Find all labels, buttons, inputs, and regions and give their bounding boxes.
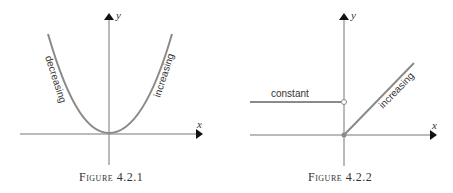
y-axis-label: y xyxy=(350,9,356,21)
open-circle-point xyxy=(342,100,347,105)
parabola-curve xyxy=(48,34,172,133)
constant-label: constant xyxy=(271,88,309,99)
figure-4-2-2: y x constant increasing xyxy=(250,9,437,166)
x-axis-label: x xyxy=(431,119,437,131)
caption-word: Figure xyxy=(79,170,113,184)
figure-caption-2: Figure 4.2.2 xyxy=(308,170,372,185)
increasing-label: increasing xyxy=(377,70,417,110)
y-axis-label: y xyxy=(115,9,121,21)
y-axis-arrow-icon xyxy=(339,13,349,20)
caption-number: 4.2.1 xyxy=(117,170,144,184)
figure-4-2-1: y x decreasing increasing xyxy=(20,9,203,165)
decreasing-label: decreasing xyxy=(43,54,69,104)
figures-canvas: y x decreasing increasing y x constant i… xyxy=(0,0,453,193)
increasing-label: increasing xyxy=(151,52,176,99)
caption-word: Figure xyxy=(308,170,342,184)
caption-number: 4.2.2 xyxy=(346,170,373,184)
x-axis-label: x xyxy=(196,118,202,130)
x-axis-arrow-icon xyxy=(430,130,437,140)
x-axis-arrow-icon xyxy=(196,129,203,139)
figure-caption-1: Figure 4.2.1 xyxy=(79,170,143,185)
filled-point xyxy=(342,133,347,138)
y-axis-arrow-icon xyxy=(104,13,114,20)
